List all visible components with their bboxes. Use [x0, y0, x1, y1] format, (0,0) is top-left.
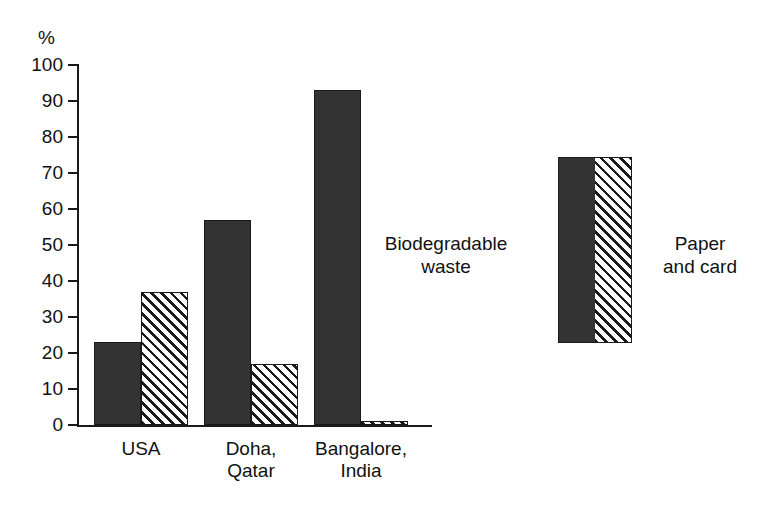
y-axis-tick	[68, 172, 77, 174]
chart-legend: Biodegradablewaste Paperand card	[470, 0, 758, 508]
y-axis-tick-label: 70	[17, 163, 63, 182]
y-axis-line	[77, 64, 79, 427]
legend-swatch-hatch	[595, 158, 631, 342]
legend-swatch-solid	[559, 158, 595, 342]
y-axis-tick-label: 30	[17, 307, 63, 326]
x-axis-category-label-line: Bangalore,	[290, 438, 432, 460]
bar	[361, 421, 408, 425]
bar	[251, 364, 298, 425]
legend-swatch	[558, 157, 632, 343]
legend-label-line: waste	[346, 255, 546, 278]
y-axis-tick-label: 40	[17, 271, 63, 290]
x-axis-category-label: Bangalore,India	[290, 438, 432, 482]
bar	[94, 342, 141, 425]
y-axis-tick-label: 60	[17, 199, 63, 218]
y-axis-tick-label: 80	[17, 127, 63, 146]
legend-label-line: Biodegradable	[346, 232, 546, 255]
y-axis-tick	[68, 208, 77, 210]
y-axis-unit-label: %	[38, 28, 55, 47]
y-axis-tick	[68, 136, 77, 138]
x-axis-line	[77, 425, 432, 427]
y-axis-tick-label: 50	[17, 235, 63, 254]
y-axis-tick	[68, 100, 77, 102]
x-axis-category-label-line: India	[290, 460, 432, 482]
y-axis-tick	[68, 316, 77, 318]
y-axis-tick-label: 20	[17, 343, 63, 362]
bar	[204, 220, 251, 425]
y-axis-tick	[68, 64, 77, 66]
legend-label-paper-and-card: Paperand card	[642, 232, 758, 278]
legend-label-line: Paper	[642, 232, 758, 255]
y-axis-tick-label: 90	[17, 91, 63, 110]
y-axis-tick	[68, 244, 77, 246]
y-axis-tick-label: 0	[17, 415, 63, 434]
y-axis-tick	[68, 352, 77, 354]
y-axis-tick	[68, 424, 77, 426]
y-axis-tick-label: 10	[17, 379, 63, 398]
bar	[141, 292, 188, 425]
y-axis-tick	[68, 280, 77, 282]
legend-label-biodegradable-waste: Biodegradablewaste	[346, 232, 546, 278]
y-axis-tick-label: 100	[17, 55, 63, 74]
chart-page: % 0102030405060708090100 USADoha,QatarBa…	[0, 0, 758, 508]
y-axis-tick	[68, 388, 77, 390]
legend-label-line: and card	[642, 255, 758, 278]
